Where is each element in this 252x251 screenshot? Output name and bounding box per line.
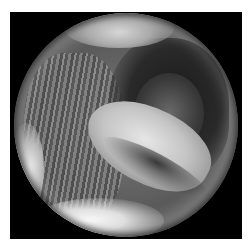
endoscopic-view [14,13,238,237]
scope-rim [14,13,238,237]
